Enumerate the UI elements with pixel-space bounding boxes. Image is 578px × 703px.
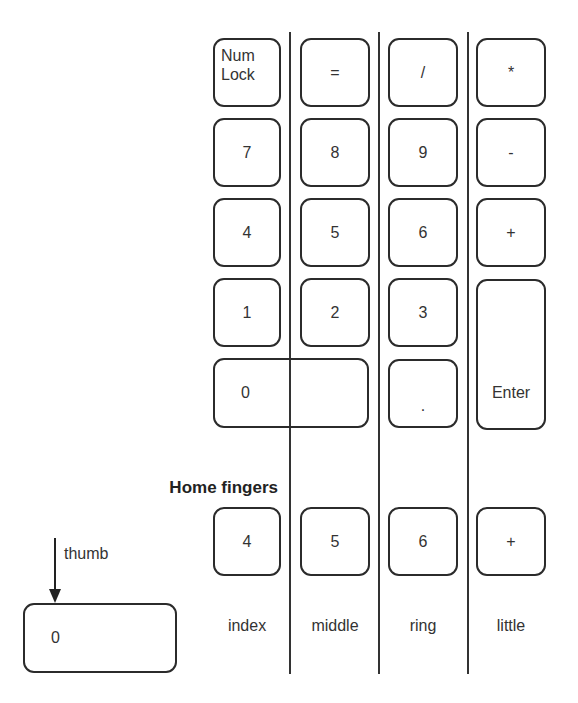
key-3: 3 xyxy=(388,278,458,347)
key-equals-label: = xyxy=(330,64,339,82)
key-decimal: . xyxy=(388,359,458,428)
key-num-lock: Num Lock xyxy=(213,38,281,107)
key-minus-label: - xyxy=(508,144,513,162)
home-key-plus-label: + xyxy=(506,533,515,551)
thumb-label: thumb xyxy=(64,545,108,563)
key-5-label: 5 xyxy=(331,224,340,242)
key-plus: + xyxy=(476,198,546,267)
key-enter-label: Enter xyxy=(492,384,530,402)
home-key-6: 6 xyxy=(388,507,458,576)
key-9-label: 9 xyxy=(419,144,428,162)
home-key-5: 5 xyxy=(300,507,370,576)
key-plus-label: + xyxy=(506,224,515,242)
key-num-lock-label-2: Lock xyxy=(221,65,255,84)
finger-label-little: little xyxy=(467,617,555,635)
arrow-down-icon xyxy=(49,589,61,603)
key-8-label: 8 xyxy=(331,144,340,162)
key-minus: - xyxy=(476,118,546,187)
finger-label-middle: middle xyxy=(291,617,379,635)
finger-label-ring: ring xyxy=(379,617,467,635)
key-divide: / xyxy=(388,38,458,107)
key-num-lock-label-1: Num xyxy=(221,46,255,65)
key-1-label: 1 xyxy=(243,304,252,322)
thumb-key-0-label: 0 xyxy=(51,629,60,647)
key-0-wide: 0 xyxy=(213,358,369,428)
key-0-label: 0 xyxy=(241,384,250,402)
home-key-plus: + xyxy=(476,507,546,576)
key-9: 9 xyxy=(388,118,458,187)
key-6: 6 xyxy=(388,198,458,267)
key-2: 2 xyxy=(300,278,370,347)
key-7-label: 7 xyxy=(243,144,252,162)
thumb-arrow-shaft xyxy=(54,538,56,590)
key-4-label: 4 xyxy=(243,224,252,242)
key-equals: = xyxy=(300,38,370,107)
key-multiply: * xyxy=(476,38,546,107)
key-3-label: 3 xyxy=(419,304,428,322)
key-decimal-label: . xyxy=(421,397,425,415)
key-5: 5 xyxy=(300,198,370,267)
column-divider-ring-little xyxy=(467,32,469,674)
key-6-label: 6 xyxy=(419,224,428,242)
key-2-label: 2 xyxy=(331,304,340,322)
key-4: 4 xyxy=(213,198,281,267)
column-divider-index-middle xyxy=(289,32,291,674)
key-enter: Enter xyxy=(476,279,546,430)
key-8: 8 xyxy=(300,118,370,187)
home-key-4: 4 xyxy=(213,507,281,576)
key-7: 7 xyxy=(213,118,281,187)
thumb-key-0: 0 xyxy=(23,603,177,673)
home-fingers-title: Home fingers xyxy=(140,478,278,498)
column-divider-middle-ring xyxy=(378,32,380,674)
key-1: 1 xyxy=(213,278,281,347)
home-key-4-label: 4 xyxy=(243,533,252,551)
key-divide-label: / xyxy=(421,64,425,82)
key-multiply-label: * xyxy=(508,64,514,82)
home-key-5-label: 5 xyxy=(331,533,340,551)
home-key-6-label: 6 xyxy=(419,533,428,551)
finger-label-index: index xyxy=(203,617,291,635)
